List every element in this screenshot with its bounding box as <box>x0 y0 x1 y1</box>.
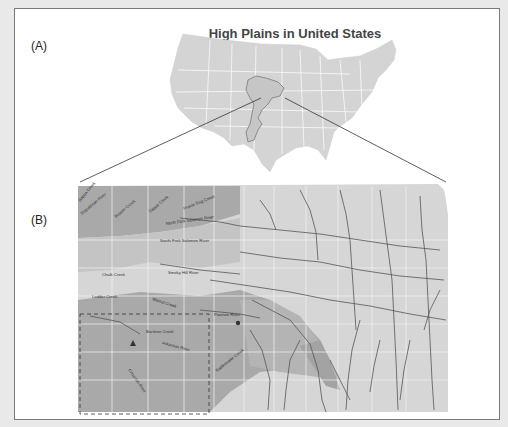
river-label: Buckner Creek <box>146 329 175 334</box>
river-label: Smoky Hill River <box>168 270 199 275</box>
river-label: Ladder Creek <box>92 294 118 299</box>
map-graphics: Sappa Creek Republican River Beaver Cree… <box>0 0 508 427</box>
river-label: South Fork Solomon River <box>160 238 210 243</box>
river-label: Pawnee River <box>214 312 241 317</box>
river-label: Chalk Creek <box>102 272 126 277</box>
site-circle-marker <box>236 321 240 325</box>
us-map <box>170 34 396 172</box>
